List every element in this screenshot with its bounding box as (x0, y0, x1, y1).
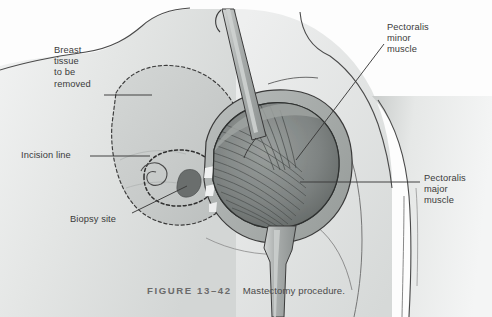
label-pectoralis-minor-muscle: Pectoralis minor muscle (387, 22, 429, 56)
figure-title: Mastectomy procedure. (243, 285, 345, 296)
label-biopsy-site: Biopsy site (70, 214, 116, 225)
figure-number: FIGURE 13–42 (147, 285, 232, 296)
label-pectoralis-major-muscle: Pectoralis major muscle (424, 173, 466, 207)
figure-caption: FIGURE 13–42Mastectomy procedure. (0, 285, 492, 296)
label-incision-line: Incision line (21, 150, 71, 161)
pectoralis-muscle-mass (210, 103, 339, 229)
figure-container: Breast tissue to be removed Incision lin… (0, 0, 492, 317)
label-breast-tissue: Breast tissue to be removed (54, 45, 91, 90)
